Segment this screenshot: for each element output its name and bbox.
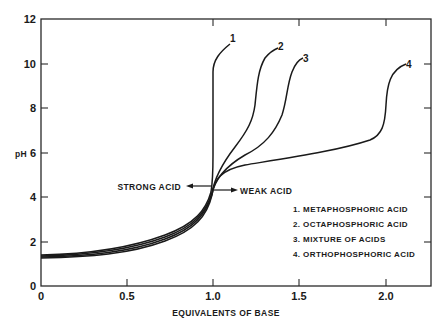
top-axis-ticks <box>213 19 386 26</box>
x-tick-0: 0 <box>38 290 44 302</box>
curve-label-2: 2 <box>278 41 284 52</box>
right-axis-ticks <box>424 64 431 242</box>
acid-divider-annotation: STRONG ACID WEAK ACID <box>117 182 292 196</box>
x-axis-label: EQUIVALENTS OF BASE <box>172 308 280 318</box>
x-tick-1-5: 1.5 <box>291 290 306 302</box>
plot-frame <box>41 19 431 286</box>
curve-label-3: 3 <box>303 53 309 64</box>
x-tick-2-0: 2.0 <box>378 290 393 302</box>
arrow-right-icon <box>231 188 238 193</box>
y-tick-2: 2 <box>30 236 36 248</box>
y-axis-label: pH <box>15 149 27 159</box>
curve-label-4: 4 <box>406 59 412 70</box>
curve-1-metaphosphoric <box>41 44 230 255</box>
curve-labels: 1 2 3 4 <box>230 33 412 70</box>
curve-2-octaphosphoric <box>41 48 278 256</box>
weak-acid-label: WEAK ACID <box>240 186 292 196</box>
y-tick-6: 6 <box>30 147 36 159</box>
x-axis-ticks <box>127 279 386 286</box>
legend-item-1: 1. METAPHOSPHORIC ACID <box>293 205 408 214</box>
titration-chart: 12 10 8 6 4 2 0 pH 0 0.5 1.0 1.5 2.0 EQU… <box>0 0 445 324</box>
legend: 1. METAPHOSPHORIC ACID 2. OCTAPHOSPHORIC… <box>293 205 415 259</box>
y-tick-0: 0 <box>30 280 36 292</box>
arrow-left-icon <box>186 184 193 189</box>
strong-acid-label: STRONG ACID <box>117 182 181 192</box>
curve-3-mixture <box>41 58 303 257</box>
legend-item-3: 3. MIXTURE OF ACIDS <box>293 235 386 244</box>
y-axis-ticks <box>41 64 48 242</box>
y-tick-12: 12 <box>24 13 36 25</box>
legend-item-2: 2. OCTAPHOSPHORIC ACID <box>293 220 408 229</box>
y-tick-8: 8 <box>30 102 36 114</box>
y-tick-10: 10 <box>24 58 36 70</box>
legend-item-4: 4. ORTHOPHOSPHORIC ACID <box>293 250 415 259</box>
x-tick-1-0: 1.0 <box>205 290 220 302</box>
x-tick-labels: 0 0.5 1.0 1.5 2.0 <box>38 290 394 302</box>
curve-label-1: 1 <box>230 33 236 44</box>
y-tick-4: 4 <box>30 191 37 203</box>
x-tick-0-5: 0.5 <box>119 290 134 302</box>
